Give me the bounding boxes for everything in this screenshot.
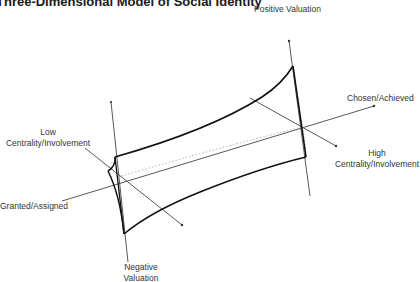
centrality-axis-right	[250, 98, 336, 146]
low-centrality-label: Low Centrality/Involvement	[0, 127, 96, 149]
surface-left-upper-curve	[108, 157, 115, 171]
hidden-edge-middle	[118, 128, 298, 177]
valuation-axis-right-arrow-icon	[288, 40, 290, 42]
origin-axis-arrow-icon	[373, 105, 375, 107]
chosen-achieved-label: Chosen/Achieved	[347, 93, 414, 104]
centrality-axis-left-arrow-icon	[181, 224, 183, 226]
positive-valuation-label: Positive Valuation	[254, 4, 321, 15]
centrality-axis-right-arrow-icon	[335, 145, 337, 147]
surface-top-edge	[115, 66, 293, 157]
centrality-axis-left	[85, 148, 182, 225]
high-centrality-label: High Centrality/Involvement	[333, 148, 420, 170]
surface-bottom-edge	[124, 157, 306, 234]
surface-right-edge	[293, 66, 306, 157]
surface-left-inner-edge	[115, 157, 124, 234]
granted-assigned-label: Granted/Assigned	[0, 201, 68, 212]
negative-valuation-label: Negative Valuation	[112, 262, 170, 282]
valuation-axis-left-arrow-icon	[110, 101, 112, 103]
valuation-axis-right	[289, 41, 310, 196]
